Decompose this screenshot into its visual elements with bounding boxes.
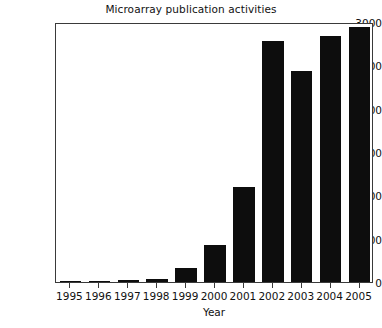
x-axis-tick-label: 2005	[339, 290, 379, 302]
x-axis-title: Year	[55, 306, 373, 319]
x-axis-tick-mark	[359, 283, 360, 288]
bar-2005	[349, 27, 370, 282]
x-axis-tick-mark	[69, 283, 70, 288]
x-axis-tick-mark	[156, 283, 157, 288]
bar-1996	[89, 281, 110, 282]
bar-1999	[175, 268, 196, 282]
plot-area	[55, 23, 373, 283]
bar-2003	[291, 71, 312, 282]
x-axis-tick-mark	[127, 283, 128, 288]
x-axis-tick-mark	[214, 283, 215, 288]
bar-2004	[320, 36, 341, 282]
bar-2002	[262, 41, 283, 282]
chart-container: Microarray publication activities 050010…	[0, 0, 382, 328]
x-axis-tick-mark	[330, 283, 331, 288]
x-axis-tick-mark	[272, 283, 273, 288]
x-axis-tick-mark	[301, 283, 302, 288]
bars-layer	[56, 24, 372, 282]
x-axis-tick-mark	[243, 283, 244, 288]
x-axis-tick-mark	[185, 283, 186, 288]
bar-2001	[233, 187, 254, 282]
x-axis-tick-mark	[98, 283, 99, 288]
chart-title: Microarray publication activities	[0, 2, 382, 16]
bar-1997	[118, 280, 139, 282]
bar-1998	[146, 279, 167, 282]
bar-1995	[60, 281, 81, 282]
bar-2000	[204, 245, 225, 282]
